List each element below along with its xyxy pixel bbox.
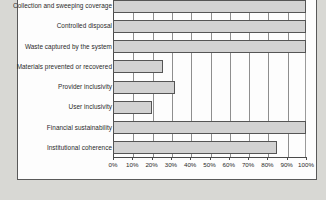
x-tick [306, 157, 307, 160]
chart-row: Collection and sweeping coverage [0, 0, 326, 16]
category-label: Materials prevented or recovered [0, 63, 112, 71]
bar [113, 0, 306, 13]
x-tick [152, 157, 153, 160]
x-tick [210, 157, 211, 160]
bar [113, 81, 175, 94]
x-tick [132, 157, 133, 160]
chart-row: Controlled disposal [0, 16, 326, 36]
category-label: Financial sustainability [0, 124, 112, 132]
category-label: Collection and sweeping coverage [0, 2, 112, 10]
category-label: Provider inclusivity [0, 83, 112, 91]
x-tick [248, 157, 249, 160]
x-tick [190, 157, 191, 160]
bar [113, 60, 163, 73]
bar [113, 141, 277, 154]
bar-chart: Collection and sweeping coverageControll… [0, 0, 326, 200]
bar [113, 40, 306, 53]
category-label: Controlled disposal [0, 22, 112, 30]
x-tick [113, 157, 114, 160]
bar [113, 101, 152, 114]
category-label: Waste captured by the system [0, 43, 112, 51]
chart-rows: Collection and sweeping coverageControll… [0, 0, 326, 158]
bar [113, 20, 306, 33]
page-bottom-margin [0, 181, 326, 200]
bar [113, 121, 306, 134]
category-label: User inclusivity [0, 103, 112, 111]
chart-row: Materials prevented or recovered [0, 57, 326, 77]
chart-row: Provider inclusivity [0, 77, 326, 97]
chart-row: Institutional coherence [0, 138, 326, 158]
chart-row: Waste captured by the system [0, 37, 326, 57]
x-tick [229, 157, 230, 160]
category-label: Institutional coherence [0, 144, 112, 152]
chart-row: Financial sustainability [0, 118, 326, 138]
x-tick [287, 157, 288, 160]
chart-row: User inclusivity [0, 97, 326, 117]
x-tick-label: 100% [293, 161, 319, 169]
x-tick [171, 157, 172, 160]
x-tick [267, 157, 268, 160]
